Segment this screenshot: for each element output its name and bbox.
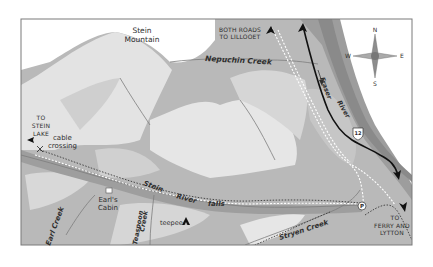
label-to-stein-lake-2: STEIN — [32, 122, 51, 129]
label-falls: falls — [208, 200, 225, 208]
highway-shield-icon: 12 — [353, 128, 363, 140]
label-both-roads-1: BOTH ROADS — [219, 26, 261, 33]
compass-s: S — [373, 80, 377, 87]
label-both-roads-2: TO LILLOOET — [219, 33, 261, 40]
label-to-stein-lake-1: TO — [36, 114, 46, 121]
trail-map: N S W E 12 P Stein Mountain BOTH ROADS T… — [0, 0, 433, 267]
parking-letter: P — [360, 203, 364, 209]
label-crossing: crossing — [48, 142, 77, 150]
label-stein-mountain-1: Stein — [132, 26, 151, 35]
compass-n: N — [373, 26, 378, 33]
label-to-ferry-2: FERRY AND — [374, 222, 410, 229]
highway-number: 12 — [355, 130, 362, 136]
label-teepee: teepee — [160, 219, 183, 227]
label-to-stein-lake-3: LAKE — [33, 130, 49, 137]
compass-e: E — [400, 52, 404, 59]
label-earls-cabin-1: Earl's — [98, 196, 117, 204]
compass-w: W — [345, 52, 351, 59]
label-earls-cabin-2: Cabin — [98, 204, 118, 212]
label-to-ferry-1: TO — [390, 214, 400, 221]
label-cable: cable — [53, 134, 72, 142]
parking-icon: P — [358, 202, 366, 210]
label-stein-mountain-2: Mountain — [125, 35, 160, 44]
label-to-ferry-3: LYTTON — [380, 229, 404, 236]
cabin-icon — [106, 188, 112, 193]
